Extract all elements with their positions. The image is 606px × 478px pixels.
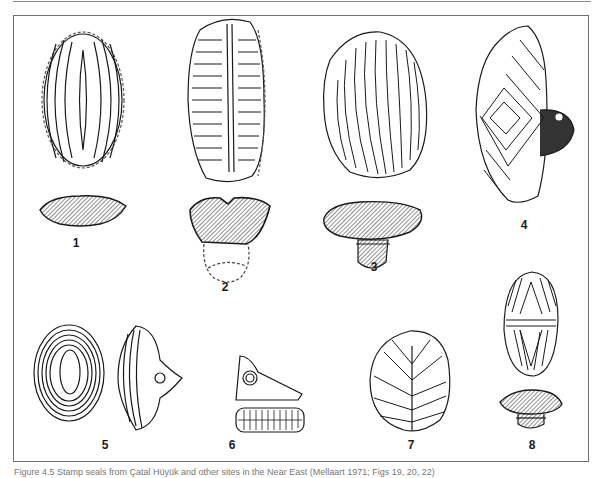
figure-label-2: 2 bbox=[222, 280, 229, 294]
seal-2-section bbox=[190, 198, 270, 244]
seal-6-top bbox=[236, 356, 302, 400]
figure-plate bbox=[0, 0, 606, 478]
seal-8-handle bbox=[518, 414, 544, 428]
seal-3-section bbox=[324, 202, 422, 240]
figure-label-4: 4 bbox=[521, 218, 528, 232]
seal-5-side bbox=[118, 326, 182, 430]
figure-label-1: 1 bbox=[73, 236, 80, 250]
figure-label-3: 3 bbox=[371, 260, 378, 274]
figure-label-5: 5 bbox=[102, 438, 109, 452]
figure-caption: Figure 4.5 Stamp seals from Çatal Hüyük … bbox=[14, 467, 435, 477]
seal-1-face bbox=[42, 32, 124, 168]
seal-2-handle-reconstruction bbox=[204, 244, 249, 282]
seal-1-section bbox=[40, 196, 126, 226]
seal-8-face bbox=[504, 272, 558, 376]
seal-3-face bbox=[324, 32, 427, 178]
figure-label-7: 7 bbox=[408, 438, 415, 452]
figure-label-8: 8 bbox=[529, 438, 536, 452]
figure-label-6: 6 bbox=[229, 438, 236, 452]
seal-7-face bbox=[370, 331, 450, 431]
seal-6-base bbox=[236, 408, 304, 432]
seal-2-face bbox=[188, 19, 265, 181]
seal-8-section bbox=[500, 390, 562, 414]
seal-5-face bbox=[34, 325, 104, 421]
seal-4-face bbox=[476, 26, 574, 202]
